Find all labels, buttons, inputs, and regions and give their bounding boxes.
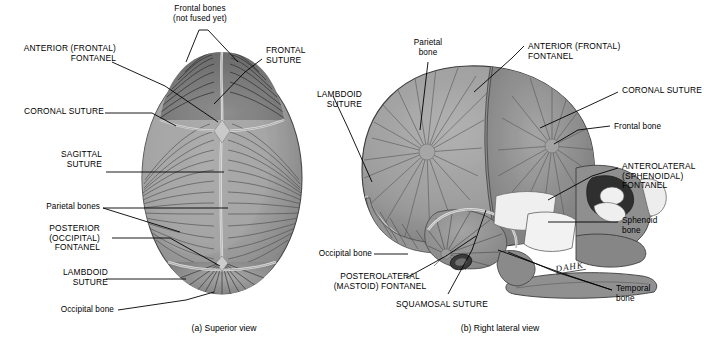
artist-signature: DAHK <box>554 259 586 274</box>
label-occipital-bone-superior: Occipital bone <box>22 305 114 315</box>
label-lambdoid-suture-superior: LAMBDOID SUTURE <box>20 268 108 287</box>
label-frontal-bone-lateral: Frontal bone <box>614 122 692 132</box>
label-sagittal-suture: SAGITTAL SUTURE <box>20 150 102 169</box>
frontal-center <box>545 139 559 153</box>
fetal-skull-figure: DAHK Frontal bones (not fused yet) ANTER… <box>0 0 704 342</box>
label-anterior-frontal-fontanel-superior: ANTERIOR (FRONTAL) FONTANEL <box>12 44 116 63</box>
label-parietal-bone-lateral: Parietal bone <box>400 38 456 57</box>
parietal-center <box>419 144 435 160</box>
label-frontal-bones: Frontal bones (not fused yet) <box>148 4 252 23</box>
label-lambdoid-suture-lateral: LAMBDOID SUTURE <box>300 90 362 109</box>
label-parietal-bones: Parietal bones <box>14 202 100 212</box>
sphenoid-bone-region <box>524 212 576 251</box>
label-frontal-suture: FRONTAL SUTURE <box>266 46 336 65</box>
label-anterolateral-sphenoidal-fontanel: ANTEROLATERAL (SPHENOIDAL) FONTANEL <box>622 162 704 191</box>
lateral-view-skull: DAHK <box>333 46 666 298</box>
caption-lateral-view: (b) Right lateral view <box>432 323 568 333</box>
label-temporal-bone: Temporal bone <box>616 284 682 303</box>
label-posterior-occipital-fontanel: POSTERIOR (OCCIPITAL) FONTANEL <box>10 224 100 253</box>
label-anterior-frontal-fontanel-lateral: ANTERIOR (FRONTAL) FONTANEL <box>528 42 654 61</box>
label-coronal-suture-superior: CORONAL SUTURE <box>4 107 104 117</box>
label-posterolateral-mastoid-fontanel: POSTEROLATERAL (MASTOID) FONTANEL <box>312 272 448 291</box>
caption-superior-view: (a) Superior view <box>166 323 282 333</box>
label-coronal-suture-lateral: CORONAL SUTURE <box>622 86 704 96</box>
label-sphenoid-bone: Sphenoid bone <box>622 216 692 235</box>
superior-view-skull <box>103 30 302 310</box>
label-squamosal-suture: SQUAMOSAL SUTURE <box>378 300 506 310</box>
label-occipital-bone-lateral: Occipital bone <box>296 249 372 259</box>
